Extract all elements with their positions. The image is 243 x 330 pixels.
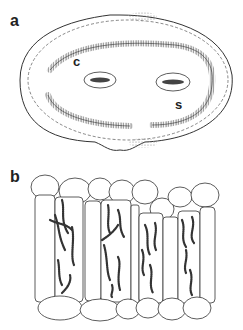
panel-a-diagram: [0, 0, 243, 165]
panel-b-diagram: [0, 165, 243, 330]
